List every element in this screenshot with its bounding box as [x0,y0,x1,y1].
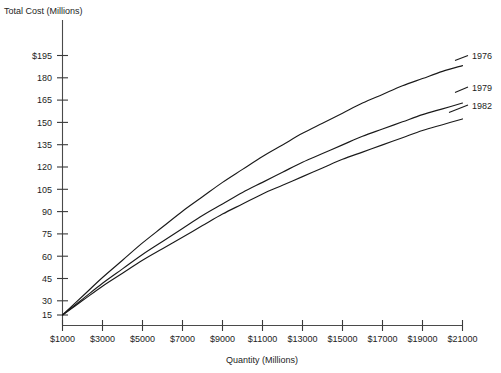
series-curve-1979 [63,103,463,315]
y-axis-tick-labels: $195 180 165 150 135 120 105 90 75 60 45… [32,51,52,321]
y-tick-label: 150 [37,118,52,128]
x-tick-label: $3000 [90,334,115,344]
series-label-1982: 1982 [472,101,492,111]
y-axis-title: Total Cost (Millions) [4,6,83,16]
y-tick-label: 120 [37,162,52,172]
y-tick-label: 165 [37,95,52,105]
x-tick-label: $13000 [287,334,317,344]
x-tick-label: $11000 [248,334,277,344]
series-curve-1982 [63,119,463,315]
y-tick-label: 30 [42,296,52,306]
series-label-1979: 1979 [472,83,492,93]
leader-line-1979 [455,87,468,93]
x-tick-label: $19000 [407,334,437,344]
x-axis-title: Quantity (Millions) [226,355,298,365]
y-tick-label: $195 [32,51,52,61]
series-labels: 1976 1979 1982 [472,51,492,111]
leader-line-1976 [455,56,468,61]
y-tick-label: 60 [42,252,52,262]
y-tick-label: 135 [37,140,52,150]
y-tick-label: 15 [42,310,52,320]
x-tick-label: $9000 [210,334,235,344]
x-tick-label: $15000 [327,334,357,344]
chart-page: Total Cost (Millions) $195 180 165 150 [0,0,501,373]
cost-quantity-line-chart: Total Cost (Millions) $195 180 165 150 [0,0,501,373]
y-tick-label: 75 [42,229,52,239]
y-tick-label: 180 [37,73,52,83]
x-tick-label: $21000 [447,334,477,344]
y-tick-label: 90 [42,207,52,217]
x-axis-tick-labels: $1000 $3000 $5000 $7000 $9000 $11000 $13… [50,334,478,344]
x-tick-label: $1000 [50,334,75,344]
x-tick-label: $5000 [130,334,155,344]
series-curves [63,66,463,315]
series-curve-1976 [63,66,463,315]
y-tick-label: 105 [37,185,52,195]
y-tick-label: 45 [42,274,52,284]
x-tick-label: $7000 [170,334,195,344]
x-tick-label: $17000 [367,334,397,344]
series-label-1976: 1976 [472,51,492,61]
